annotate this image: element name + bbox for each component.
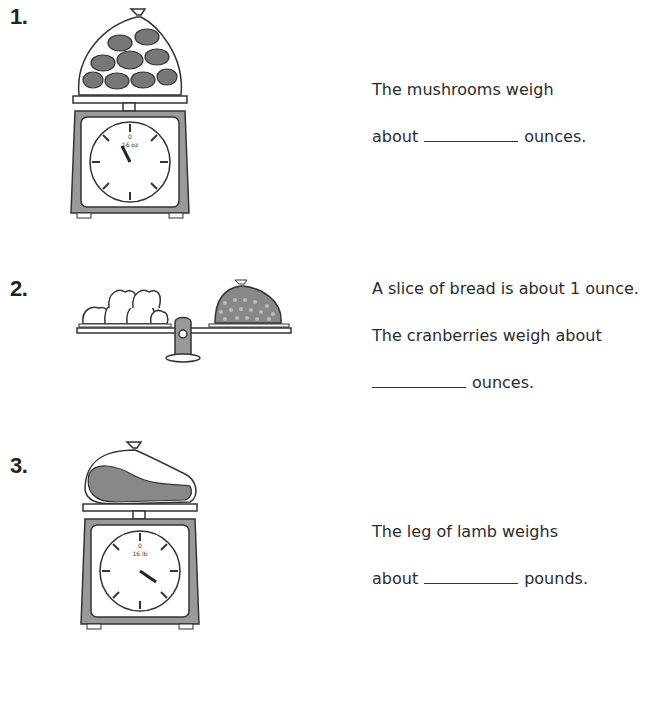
problem-1-answer-blank[interactable] [424, 140, 518, 142]
svg-text:16 lb: 16 lb [132, 550, 147, 557]
problem-1-number: 1. [10, 4, 27, 30]
svg-text:0: 0 [138, 542, 142, 549]
problem-3-answer-blank[interactable] [424, 582, 518, 584]
svg-text:0: 0 [128, 133, 132, 140]
problem-2-suffix: ounces. [472, 373, 534, 392]
problem-2-text-line2: The cranberries weigh about [372, 326, 602, 345]
problem-1-suffix: ounces. [524, 127, 586, 146]
lamb-scale-illustration: 0 16 lb [75, 440, 205, 635]
problem-3-text-line2: aboutpounds. [372, 569, 588, 588]
problem-1-prefix: about [372, 127, 418, 146]
problem-2-text-line3: ounces. [372, 373, 534, 392]
problem-2-number: 2. [10, 276, 27, 302]
mushroom-scale-illustration: 0 16 oz [65, 5, 195, 220]
problem-3-text-line1: The leg of lamb weighs [372, 522, 558, 541]
problem-2-answer-blank[interactable] [372, 386, 466, 388]
problem-1-text-line2: aboutounces. [372, 127, 586, 146]
problem-3-number: 3. [10, 453, 27, 479]
balance-scale-illustration [75, 278, 295, 366]
problem-3-suffix: pounds. [524, 569, 588, 588]
problem-1-text-line1: The mushrooms weigh [372, 80, 554, 99]
svg-text:16 oz: 16 oz [122, 141, 138, 148]
problem-3-prefix: about [372, 569, 418, 588]
problem-2-text-line1: A slice of bread is about 1 ounce. [372, 279, 639, 298]
